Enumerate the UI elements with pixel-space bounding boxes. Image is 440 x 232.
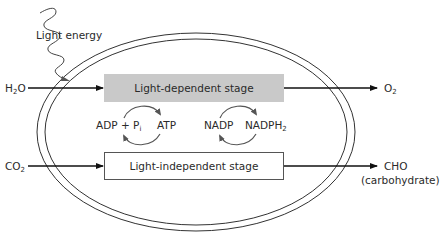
light-dependent-stage-box: Light-dependent stage	[104, 74, 284, 102]
light-dependent-stage-label: Light-dependent stage	[134, 82, 253, 94]
light-energy-wave-icon	[40, 8, 66, 80]
atp-cycle-bottom-arrow	[124, 134, 160, 145]
adp-pi-label: ADP + Pi	[96, 120, 141, 133]
co2-label: CO2	[5, 161, 25, 174]
light-independent-stage-label: Light-independent stage	[130, 160, 259, 172]
light-independent-stage-box: Light-independent stage	[104, 152, 284, 180]
cho-label: CHO	[384, 161, 408, 172]
light-energy-label: Light energy	[36, 30, 102, 41]
atp-label: ATP	[157, 120, 176, 131]
outer-membrane	[37, 33, 355, 231]
carbohydrate-label: (carbohydrate)	[361, 175, 440, 186]
nadp-label: NADP	[204, 120, 233, 131]
nadph2-label: NADPH2	[245, 120, 287, 133]
nadp-cycle-bottom-arrow	[220, 134, 256, 145]
inner-membrane	[45, 39, 347, 225]
nadp-cycle-top-arrow	[220, 106, 256, 118]
atp-cycle-top-arrow	[124, 106, 160, 118]
o2-label: O2	[384, 83, 397, 96]
h2o-label: H2O	[5, 83, 26, 96]
